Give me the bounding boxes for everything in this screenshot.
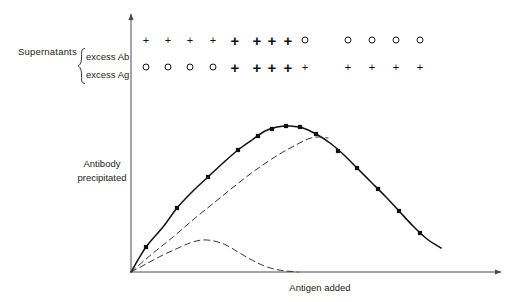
data-point-14 <box>418 231 422 235</box>
precipitin-curve-figure: Supernatants excess Ab excess Ag +++++++… <box>0 0 526 302</box>
data-point-13 <box>397 209 401 213</box>
data-point-4 <box>236 148 240 152</box>
data-point-5 <box>256 134 260 138</box>
data-point-9 <box>314 132 318 136</box>
data-point-10 <box>336 149 340 153</box>
curve-total-antibody-precipitated <box>131 126 441 272</box>
data-point-1 <box>144 245 148 249</box>
data-point-3 <box>206 175 210 179</box>
data-point-2 <box>175 206 179 210</box>
curve-free-antigen-lower <box>131 240 298 272</box>
data-markers <box>144 124 422 249</box>
data-point-11 <box>355 166 359 170</box>
curves <box>131 126 441 272</box>
plot-canvas <box>0 0 526 302</box>
data-point-8 <box>298 125 302 129</box>
data-point-12 <box>376 187 380 191</box>
axes <box>131 14 501 272</box>
data-point-6 <box>270 127 274 131</box>
data-point-7 <box>284 124 288 128</box>
